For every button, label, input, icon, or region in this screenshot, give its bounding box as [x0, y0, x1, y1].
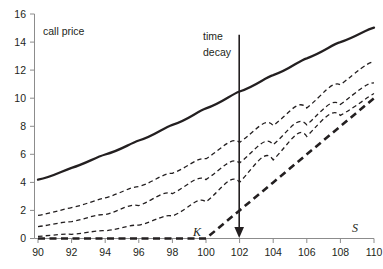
y-tick-label: 4 [20, 176, 26, 188]
y-tick-label: 10 [14, 92, 26, 104]
y-axis-label: call price [43, 25, 85, 37]
y-tick-label: 12 [14, 64, 26, 76]
x-tick-label: 106 [298, 246, 316, 258]
x-tick-label: 98 [167, 246, 179, 258]
y-tick-label: 0 [20, 232, 26, 244]
y-tick-label: 6 [20, 148, 26, 160]
chart-background [0, 0, 383, 269]
x-tick-label: 96 [133, 246, 145, 258]
x-tick-label: 104 [264, 246, 282, 258]
x-tick-label: 102 [231, 246, 249, 258]
x-tick-label: 94 [99, 246, 111, 258]
x-tick-label: 100 [197, 246, 215, 258]
chart-container: 0 2 4 6 8 10 12 14 16 90 92 [0, 0, 383, 269]
x-axis-label: S [352, 221, 358, 235]
y-tick-label: 16 [14, 8, 26, 20]
x-tick-label: 110 [366, 246, 383, 258]
x-tick-label: 92 [66, 246, 78, 258]
time-decay-label-line2: decay [203, 46, 232, 58]
strike-price-label: K [192, 225, 202, 239]
y-tick-label: 14 [14, 36, 26, 48]
option-price-time-decay-chart: 0 2 4 6 8 10 12 14 16 90 92 [0, 0, 383, 269]
time-decay-label-line1: time [203, 30, 223, 42]
x-tick-label: 90 [32, 246, 44, 258]
y-tick-label: 2 [20, 204, 26, 216]
y-tick-label: 8 [20, 120, 26, 132]
x-tick-label: 108 [332, 246, 350, 258]
